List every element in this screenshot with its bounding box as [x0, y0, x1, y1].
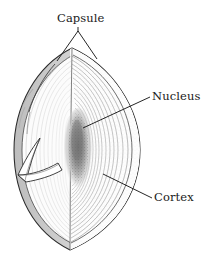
label-capsule: Capsule [57, 11, 105, 25]
lens-diagram-figure: Capsule Nucleus Cortex [0, 0, 202, 269]
nucleus-structure [64, 108, 92, 188]
label-nucleus: Nucleus [152, 89, 200, 103]
nucleus-dense-center [71, 120, 83, 160]
lens-diagram-svg: Capsule Nucleus Cortex [0, 0, 202, 269]
label-cortex: Cortex [154, 190, 194, 204]
